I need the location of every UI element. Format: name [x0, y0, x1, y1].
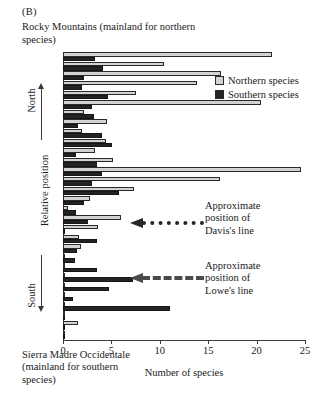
bar-northern-species — [63, 225, 98, 229]
legend-item-southern: Southern species — [215, 88, 299, 102]
x-tick — [257, 340, 258, 344]
lowe-line-arrow-icon — [130, 273, 204, 283]
bar-southern-species — [63, 133, 102, 137]
legend-label-southern: Southern species — [228, 88, 299, 102]
north-arrow-icon — [41, 88, 42, 140]
bar-southern-species — [63, 287, 109, 291]
bar-southern-species — [63, 105, 92, 109]
bar-southern-species — [63, 57, 95, 61]
lowe-line-annotation: Approximate position of Lowe's line — [205, 260, 260, 297]
bar-southern-species — [63, 201, 84, 205]
davis-line-annotation: Approximate position of Davis's line — [205, 200, 260, 237]
bar-southern-species — [63, 76, 84, 80]
bar-southern-species — [63, 258, 75, 262]
bar-southern-species — [63, 306, 170, 310]
bar-southern-species — [63, 143, 112, 147]
axis-direction-south: South — [26, 266, 37, 326]
bar-southern-species — [63, 335, 65, 339]
x-tick-label: 20 — [251, 345, 262, 356]
bar-southern-species — [63, 85, 82, 89]
bar-southern-species — [63, 316, 65, 320]
bar-southern-species — [63, 162, 97, 166]
top-caption: Rocky Mountains (mainland for northern s… — [22, 21, 202, 46]
bar-southern-species — [63, 181, 92, 185]
x-axis-title: Number of species — [63, 367, 305, 378]
x-tick-label: 5 — [109, 345, 114, 356]
bar-southern-species — [63, 210, 76, 214]
bar-southern-species — [63, 220, 88, 224]
legend: Northern species Southern species — [215, 74, 299, 101]
bar-southern-species — [63, 297, 73, 301]
bar-southern-species — [63, 124, 78, 128]
bar-northern-species — [63, 321, 78, 325]
bar-southern-species — [63, 268, 97, 272]
x-tick-label: 10 — [155, 345, 166, 356]
bar-southern-species — [63, 229, 65, 233]
x-tick-label: 0 — [60, 345, 65, 356]
x-tick — [160, 340, 161, 344]
bar-southern-species — [63, 191, 119, 195]
davis-line-arrow-icon — [130, 218, 204, 228]
bar-northern-species — [63, 71, 221, 75]
south-arrow-icon — [41, 255, 42, 307]
x-tick-label: 15 — [203, 345, 214, 356]
x-tick — [111, 340, 112, 344]
bar-southern-species — [63, 95, 108, 99]
bar-southern-species — [63, 325, 65, 329]
x-tick — [305, 340, 306, 344]
legend-swatch-northern — [215, 76, 224, 85]
x-tick-label: 25 — [300, 345, 311, 356]
y-axis-title: Relative position — [39, 141, 50, 241]
bar-southern-species — [63, 172, 102, 176]
bar-southern-species — [63, 249, 77, 253]
legend-swatch-southern — [215, 90, 224, 99]
legend-label-northern: Northern species — [228, 74, 299, 88]
bar-southern-species — [63, 66, 103, 70]
bar-southern-species — [63, 153, 76, 157]
bar-southern-species — [63, 239, 97, 243]
panel-letter: (B) — [22, 6, 37, 17]
bar-southern-species — [63, 114, 94, 118]
x-axis-line — [63, 340, 305, 341]
axis-direction-north: North — [26, 71, 37, 131]
bar-northern-species — [63, 81, 197, 85]
bar-southern-species — [63, 277, 133, 281]
x-tick — [208, 340, 209, 344]
x-tick — [63, 340, 64, 344]
legend-item-northern: Northern species — [215, 74, 299, 88]
